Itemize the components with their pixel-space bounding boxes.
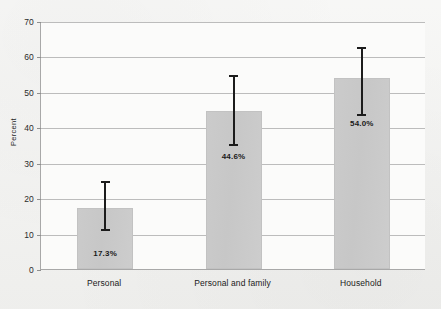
error-bar-cap-upper (229, 75, 238, 77)
plot-area: 010203040506070 17.3%44.6%54.0% (40, 22, 425, 270)
x-axis-category-label: Personal and family (168, 278, 296, 288)
y-axis-tick-label: 30 (24, 159, 34, 169)
y-axis-tick-label: 20 (24, 194, 34, 204)
y-axis-tick-mark (37, 57, 41, 58)
y-axis-tick-mark (37, 128, 41, 129)
y-axis-tick-mark (37, 270, 41, 271)
y-axis-tick-mark (37, 93, 41, 94)
error-bar-line (361, 47, 363, 116)
error-bar-line (233, 75, 235, 146)
error-bar-cap-upper (101, 181, 110, 183)
y-axis-tick-mark (37, 164, 41, 165)
y-axis-tick-label: 40 (24, 123, 34, 133)
y-axis-tick-mark (37, 22, 41, 23)
y-axis-title: Percent (9, 118, 18, 146)
y-axis-tick-mark (37, 199, 41, 200)
error-bar-cap-lower (229, 144, 238, 146)
bar-value-label: 17.3% (77, 249, 133, 258)
y-axis-tick-label: 70 (24, 17, 34, 27)
error-bar-cap-upper (357, 47, 366, 49)
bar-value-label: 54.0% (334, 119, 390, 128)
y-axis-tick-label: 50 (24, 88, 34, 98)
error-bar-line (104, 181, 106, 231)
x-axis-category-label: Personal (40, 278, 168, 288)
error-bar-cap-lower (101, 229, 110, 231)
y-axis-tick-label: 10 (24, 230, 34, 240)
x-axis-category-label: Household (297, 278, 425, 288)
y-axis-tick-label: 60 (24, 52, 34, 62)
bar-chart-figure: Percent 010203040506070 17.3%44.6%54.0% … (0, 0, 441, 309)
y-axis-tick-mark (37, 235, 41, 236)
error-bar-cap-lower (357, 114, 366, 116)
bar-group: 44.6% (206, 22, 262, 269)
bar-group: 54.0% (334, 22, 390, 269)
y-axis-tick-label: 0 (29, 265, 34, 275)
bar-value-label: 44.6% (206, 152, 262, 161)
bar-group: 17.3% (77, 22, 133, 269)
